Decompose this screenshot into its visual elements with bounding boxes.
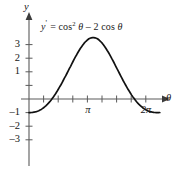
y-axis-arrowhead [26,12,33,20]
math-plot-figure: y' = cos2 θ – 2 cos θ y θ 3 2 1 –1 –2 –3… [0,0,176,172]
y-axis-label: y [24,2,29,13]
function-curve [29,38,160,113]
y-tick-label-minus-2: –2 [2,121,20,132]
y-tick-label-minus-1: –1 [2,107,20,118]
y-tick-label-1: 1 [4,66,20,77]
equation-annotation: y' = cos2 θ – 2 cos θ [41,22,123,32]
x-axis-label: θ [166,93,171,104]
equation-minus: – [86,21,91,32]
y-tick-label-minus-3: –3 [2,134,20,145]
equation-cos1: cos [59,21,73,32]
equation-theta2: θ [118,21,123,32]
equation-term2: 2 cos [94,21,115,32]
x-tick-label-pi: π [79,105,97,116]
equation-theta1: θ [78,21,83,32]
y-tick-label-2: 2 [4,53,20,64]
equation-equals: = [50,21,56,32]
equation-exponent: 2 [72,20,75,27]
x-tick-label-2pi: 2π [136,105,156,116]
y-tick-label-3: 3 [4,39,20,50]
